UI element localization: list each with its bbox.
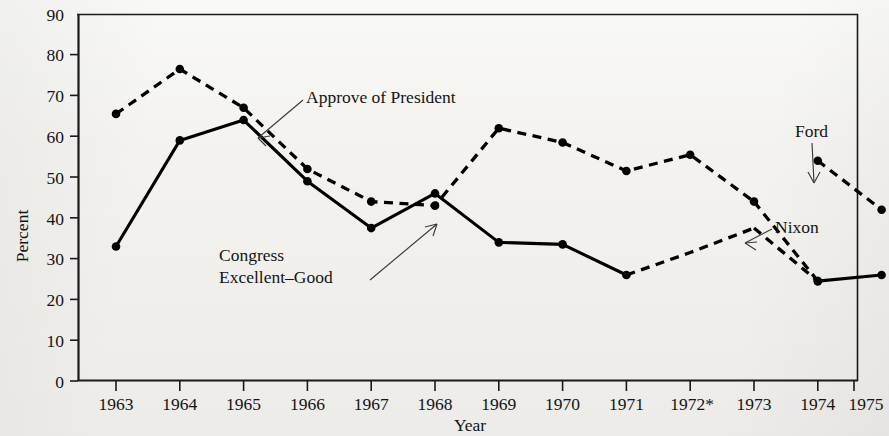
figure-container: 90 80 70 60 50 40 30 20 10 0 Percent — [0, 0, 889, 436]
data-point — [495, 124, 504, 133]
x-tick-label: 1963 — [99, 394, 134, 414]
x-axis-title: Year — [454, 415, 486, 435]
annotation-approve-of-president: Approve of President — [258, 87, 456, 146]
y-tick-label: 30 — [47, 249, 65, 269]
data-point — [558, 138, 567, 147]
y-tick-label: 70 — [47, 86, 65, 106]
data-point — [431, 189, 440, 198]
data-point — [558, 240, 567, 249]
x-tick-label: 1966 — [290, 394, 325, 414]
data-point — [686, 150, 695, 159]
x-tick-labels: 1963 1964 1965 1966 1967 1968 1969 1970 … — [99, 394, 884, 414]
series-path-congress-excellent-good — [626, 228, 754, 275]
x-tick-label: 1969 — [481, 394, 516, 414]
series-path-congress-excellent-good — [818, 275, 882, 281]
y-tick-label: 80 — [47, 45, 65, 65]
y-tick-label: 40 — [47, 209, 65, 229]
x-tick-label: 1964 — [162, 394, 197, 414]
data-point — [814, 277, 823, 286]
y-tick-marks — [70, 55, 78, 381]
annotation-nixon: Nixon — [745, 217, 819, 250]
series-path-ford — [818, 161, 882, 210]
data-point — [239, 116, 248, 125]
x-tick-marks — [116, 381, 854, 391]
x-tick-label: 1975 — [849, 394, 884, 414]
data-point — [176, 65, 185, 74]
annotation-ford: Ford — [795, 121, 828, 183]
x-tick-label: 1972* — [670, 394, 714, 414]
y-axis-title: Percent — [12, 210, 32, 263]
x-tick-label: 1968 — [418, 394, 453, 414]
data-point — [495, 238, 504, 247]
x-tick-label: 1973 — [737, 394, 772, 414]
data-point — [176, 136, 185, 145]
y-tick-label: 50 — [47, 168, 65, 188]
annotation-label-nixon: Nixon — [775, 217, 819, 237]
annotation-label-approve: Approve of President — [306, 87, 456, 107]
x-tick-label: 1971 — [609, 394, 644, 414]
data-point — [112, 242, 121, 251]
data-point — [877, 271, 886, 280]
y-tick-label: 90 — [47, 5, 65, 25]
data-point — [303, 165, 312, 174]
y-tick-label: 20 — [47, 290, 65, 310]
data-point — [112, 110, 121, 119]
series-path-approve-of-president — [754, 202, 818, 282]
data-point — [367, 197, 376, 206]
annotation-congress-excellent-good: Congress Excellent–Good — [219, 224, 437, 287]
y-tick-label: 0 — [55, 372, 64, 392]
y-tick-label: 60 — [47, 127, 65, 147]
chart-frame — [77, 14, 858, 381]
data-point — [367, 224, 376, 233]
x-tick-label: 1967 — [354, 394, 389, 414]
annotation-label-congress-line2: Excellent–Good — [219, 267, 333, 287]
annotation-label-ford: Ford — [795, 121, 828, 141]
y-tick-label: 10 — [47, 331, 65, 351]
data-point — [622, 167, 631, 176]
x-tick-label: 1965 — [226, 394, 261, 414]
data-point — [750, 197, 759, 206]
data-point — [431, 201, 440, 210]
x-tick-label: 1974 — [800, 394, 835, 414]
data-point — [814, 157, 823, 166]
data-point — [239, 103, 248, 112]
line-chart: 90 80 70 60 50 40 30 20 10 0 Percent — [0, 0, 889, 436]
data-point — [622, 271, 631, 280]
data-point — [877, 205, 886, 214]
y-tick-labels: 90 80 70 60 50 40 30 20 10 0 — [47, 5, 65, 392]
data-point — [303, 177, 312, 186]
x-tick-label: 1970 — [545, 394, 580, 414]
annotation-label-congress-line1: Congress — [219, 245, 284, 265]
